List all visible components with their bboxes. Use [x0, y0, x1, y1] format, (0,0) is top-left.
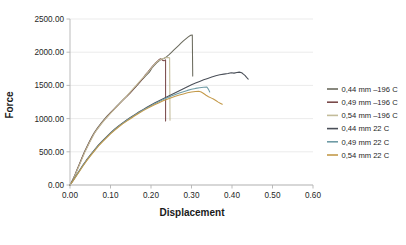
x-tick-label: 0.10: [103, 191, 119, 200]
y-tick-label: 1500.00: [34, 81, 64, 90]
x-axis-title: Displacement: [159, 207, 225, 218]
x-tick-label: 0.50: [265, 191, 281, 200]
chart-container: 0.00500.001000.001500.002000.002500.00 0…: [0, 0, 406, 245]
x-tick-label: 0.60: [305, 191, 321, 200]
legend-item-label: 0,44 mm 22 C: [342, 124, 390, 133]
legend-item-label: 0,54 mm 22 C: [342, 151, 390, 160]
force-displacement-chart: 0.00500.001000.001500.002000.002500.00 0…: [0, 0, 406, 245]
y-axis-title: Force: [4, 91, 15, 119]
y-tick-label: 500.00: [39, 148, 64, 157]
x-tick-label: 0.40: [224, 191, 240, 200]
y-tick-label: 0.00: [48, 181, 64, 190]
legend-item-label: 0,44 mm –196 C: [342, 85, 399, 94]
x-tick-label: 0.30: [184, 191, 200, 200]
legend-item-label: 0,49 mm 22 C: [342, 138, 390, 147]
legend-item-label: 0,49 mm –196 C: [342, 98, 399, 107]
y-tick-label: 2000.00: [34, 48, 64, 57]
y-tick-label: 1000.00: [34, 115, 64, 124]
x-tick-label: 0.20: [143, 191, 159, 200]
x-tick-label: 0.00: [62, 191, 78, 200]
legend-item-label: 0,54 mm –196 C: [342, 111, 399, 120]
y-tick-label: 2500.00: [34, 15, 64, 24]
